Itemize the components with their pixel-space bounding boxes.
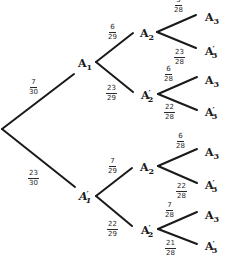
node-A3-3: A3 xyxy=(205,147,219,162)
prob-A2-prime-top: 23 29 xyxy=(106,85,117,102)
node-A2-prime-top: A′2 xyxy=(141,90,153,105)
prob-A3-4: 7 28 xyxy=(165,202,174,219)
node-A1: A1 xyxy=(78,58,92,73)
prob-A2-top: 6 29 xyxy=(108,24,117,41)
branch-A2d-A3prime xyxy=(158,229,197,244)
branch-A2d-A3 xyxy=(158,212,197,229)
probability-tree-diagram: A1 A′1 7 30 23 30 A2 A′2 A2 A′2 6 29 23 … xyxy=(0,0,228,267)
branch-A2a-A3 xyxy=(157,15,196,32)
prob-A3-prime-1: 23 28 xyxy=(174,49,185,66)
node-A3-prime-3: A′3 xyxy=(205,180,217,195)
prob-A3-2: 6 28 xyxy=(164,66,173,83)
branch-A2a-A3prime xyxy=(157,32,196,48)
prob-A3-prime-3: 22 28 xyxy=(176,183,187,200)
node-A3-prime-2: A′3 xyxy=(205,107,217,122)
prob-A1-prime: 23 30 xyxy=(28,170,39,187)
node-A3-prime-1: A′3 xyxy=(205,46,217,61)
prob-A1: 7 30 xyxy=(29,79,38,96)
branch-A2c-A3prime xyxy=(158,166,197,183)
prob-A2-bottom: 7 29 xyxy=(108,158,117,175)
node-A2-bottom: A2 xyxy=(140,162,154,177)
node-A2-top: A2 xyxy=(140,28,154,43)
branch-root-A1 xyxy=(2,74,74,129)
node-A3-4: A3 xyxy=(205,210,219,225)
node-A1-prime: A′1 xyxy=(79,191,91,206)
prob-A3-1: 5 28 xyxy=(174,0,183,14)
branch-A2c-A3 xyxy=(158,149,197,166)
prob-A2-prime-bottom: 22 29 xyxy=(107,221,118,238)
prob-A3-3: 6 28 xyxy=(176,133,185,150)
node-A3-2: A3 xyxy=(205,75,219,90)
node-A3-prime-4: A′3 xyxy=(205,241,217,256)
node-A2-prime-bottom: A′2 xyxy=(141,225,153,240)
prob-A3-prime-4: 21 28 xyxy=(165,240,176,257)
node-A3-1: A3 xyxy=(205,12,219,27)
prob-A3-prime-2: 22 28 xyxy=(164,104,175,121)
